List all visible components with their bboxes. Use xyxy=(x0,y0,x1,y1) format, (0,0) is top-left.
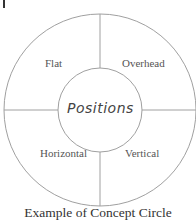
quadrant-label-horizontal: Horizontal xyxy=(40,147,87,159)
quadrant-label-vertical: Vertical xyxy=(125,147,159,159)
quadrant-label-overhead: Overhead xyxy=(122,57,165,69)
quadrant-label-flat: Flat xyxy=(45,57,62,69)
center-label: Positions xyxy=(67,100,134,116)
caption: Example of Concept Circle xyxy=(0,205,196,221)
